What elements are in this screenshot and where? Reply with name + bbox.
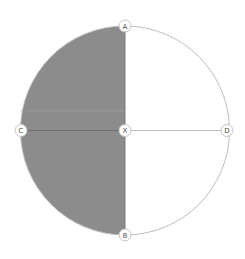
- circle-diagram: A B C D X: [0, 0, 245, 259]
- node-c: C: [15, 125, 27, 137]
- node-a-label: A: [123, 23, 128, 31]
- node-x: X: [119, 125, 131, 137]
- node-x-label: X: [123, 127, 128, 135]
- node-b-label: B: [123, 232, 128, 240]
- node-a: A: [119, 20, 131, 32]
- node-d: D: [221, 125, 233, 137]
- node-b: B: [119, 229, 131, 241]
- node-d-label: D: [224, 127, 229, 135]
- node-c-label: C: [19, 127, 24, 135]
